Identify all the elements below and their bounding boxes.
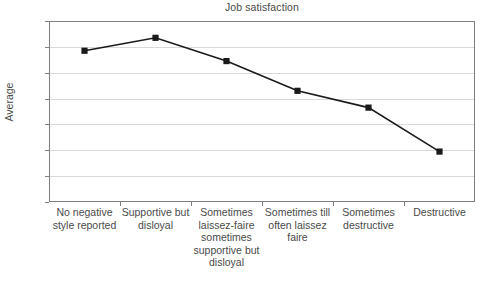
gridline: [50, 99, 474, 100]
x-category-label: Sometimes destructive: [333, 206, 404, 282]
x-axis-category-labels: No negative style reportedSupportive but…: [49, 206, 475, 282]
y-tick-mark: [45, 176, 49, 177]
chart-title: Job satisfaction: [49, 1, 475, 13]
y-tick-mark: [45, 99, 49, 100]
x-category-label: Destructive: [404, 206, 475, 282]
gridline: [50, 124, 474, 125]
y-tick-mark: [45, 73, 49, 74]
gridline: [50, 47, 474, 48]
x-category-label: Sometimes till often laissez faire: [262, 206, 333, 282]
y-tick-mark: [45, 124, 49, 125]
y-axis-title: Average: [3, 72, 15, 132]
gridline: [50, 150, 474, 151]
x-category-label: No negative style reported: [49, 206, 120, 282]
y-tick-mark: [45, 21, 49, 22]
x-category-label: Sometimes laissez-faire sometimes suppor…: [191, 206, 262, 282]
gridline: [50, 176, 474, 177]
y-tick-mark: [45, 202, 49, 203]
y-tick-mark: [45, 47, 49, 48]
x-category-label: Supportive but disloyal: [120, 206, 191, 282]
plot-area: [49, 21, 475, 202]
y-tick-mark: [45, 150, 49, 151]
job-satisfaction-line-chart: Job satisfaction Average 4,44,243,83,63,…: [0, 0, 489, 283]
gridline: [50, 73, 474, 74]
